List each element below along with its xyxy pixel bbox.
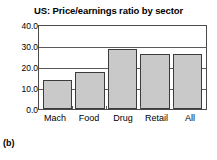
x-axis-label-retail: Retail [139, 113, 174, 123]
bar-retail [140, 54, 169, 109]
bar-drug [108, 49, 137, 109]
panel-caption: (b) [3, 138, 15, 148]
y-axis-tick-label-10: 10.0 [4, 85, 38, 94]
y-axis-tick-label-40: 40.0 [4, 22, 38, 31]
x-axis-tick-mark-3 [140, 106, 141, 110]
x-axis-tick-mark-2 [106, 106, 107, 110]
bar-slot-food [75, 26, 104, 109]
bar-slot-all [173, 26, 202, 109]
bars-layer [39, 26, 206, 109]
y-axis-tick-label-20: 20.0 [4, 64, 38, 73]
y-axis-tick-label-0: 0.0 [4, 106, 38, 115]
y-axis-tick-label-30: 30.0 [4, 43, 38, 52]
bar-slot-mach [43, 26, 72, 109]
x-axis-tick-mark-1 [72, 106, 73, 110]
x-axis-tick-mark-4 [173, 106, 174, 110]
bar-all [173, 54, 202, 109]
x-axis-label-food: Food [72, 113, 106, 123]
x-axis-label-mach: Mach [38, 113, 72, 123]
chart-title: US: Price/earnings ratio by sector [0, 5, 217, 16]
bar-slot-drug [108, 26, 137, 109]
figure-panel: US: Price/earnings ratio by sector 40.0 … [0, 0, 217, 160]
bar-slot-retail [140, 26, 169, 109]
bar-mach [43, 80, 72, 109]
x-axis-label-drug: Drug [106, 113, 140, 123]
x-axis-label-all: All [173, 113, 207, 123]
plot-area [38, 25, 207, 110]
bar-food [75, 72, 104, 109]
